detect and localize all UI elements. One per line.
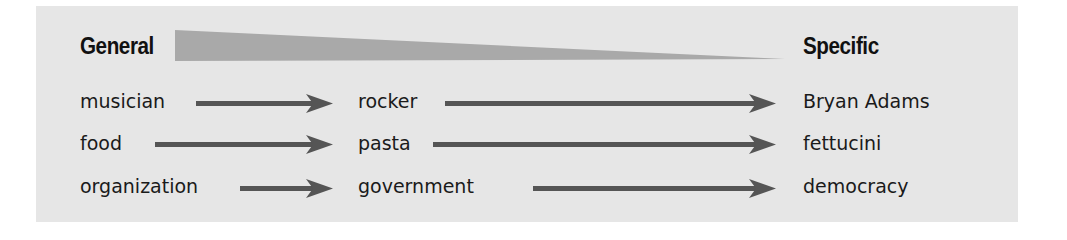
arrow-right-icon <box>533 178 779 198</box>
term-specific-row-3: democracy <box>803 174 908 198</box>
heading-general: General <box>80 32 154 60</box>
term-intermediate-row-1: rocker <box>358 89 417 113</box>
arrow-right-icon <box>155 134 336 154</box>
arrow-right-icon <box>196 93 336 113</box>
arrow-right-icon <box>445 93 779 113</box>
arrow-right-icon <box>240 178 336 198</box>
heading-specific: Specific <box>803 32 879 60</box>
term-intermediate-row-3: government <box>358 174 474 198</box>
arrow-right-icon <box>433 134 779 154</box>
term-specific-row-1: Bryan Adams <box>803 89 930 113</box>
term-intermediate-row-2: pasta <box>358 131 411 155</box>
term-general-row-3: organization <box>80 174 198 198</box>
term-specific-row-2: fettucini <box>803 131 881 155</box>
term-general-row-1: musician <box>80 89 165 113</box>
term-general-row-2: food <box>80 131 122 155</box>
